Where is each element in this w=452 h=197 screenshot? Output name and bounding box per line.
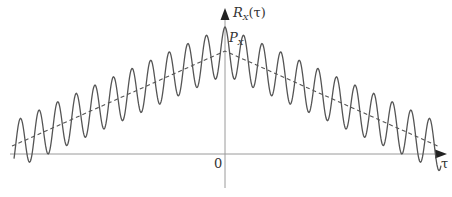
y-axis-label-main: R <box>233 5 243 20</box>
peak-label-sub: X <box>238 38 244 47</box>
peak-label: PX <box>229 31 243 44</box>
y-axis-label: RX(τ) <box>233 6 266 19</box>
peak-label-main: P <box>229 30 238 45</box>
y-axis-label-arg: (τ) <box>249 5 266 20</box>
x-axis-label: τ <box>441 157 448 170</box>
autocorrelation-diagram: RX(τ) PX 0 τ <box>0 0 452 197</box>
autocorrelation-curve <box>14 27 441 171</box>
y-axis-arrow-icon <box>221 8 230 20</box>
plot-canvas <box>0 0 452 197</box>
origin-label: 0 <box>214 157 222 170</box>
y-axis-label-sub: X <box>243 13 249 22</box>
